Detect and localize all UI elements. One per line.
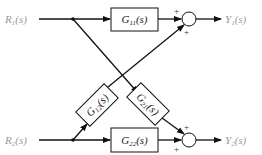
sign-plus: +: [174, 144, 179, 154]
output-label-y1: Y1(s): [225, 13, 247, 27]
summing-junction-1: [182, 12, 196, 26]
sign-plus: +: [184, 27, 189, 37]
signal-line-g12-s1: [108, 25, 184, 87]
output-label-y2: Y2(s): [225, 134, 247, 148]
summing-junction-2: [182, 133, 196, 147]
sign-plus: +: [174, 6, 179, 16]
input-label-r2: R2(s): [4, 134, 27, 148]
block-diagram: R1(s) R2(s) G11(s) + + Y1(s) G22(s) + + …: [0, 0, 262, 155]
input-label-r1: R1(s): [4, 13, 27, 27]
block-g12: G12(s): [76, 84, 118, 126]
sign-plus: +: [184, 122, 189, 132]
signal-line-r2-g12: [73, 124, 87, 140]
